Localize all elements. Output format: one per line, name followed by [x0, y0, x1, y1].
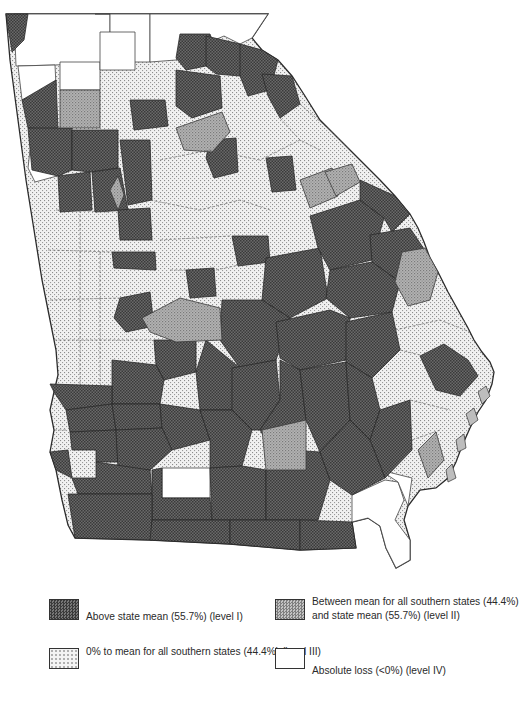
legend-label-level-iv: Absolute loss (<0%) (level IV)	[312, 664, 446, 678]
legend-label-level-ii: Between mean for all southern states (44…	[312, 595, 522, 623]
map-legend: Above state mean (55.7%) (level I) Betwe…	[0, 585, 502, 701]
level-iii-swatch	[49, 648, 79, 669]
legend-item-level-iv: Absolute loss (<0%) (level IV)	[275, 648, 446, 678]
level-i-swatch	[49, 599, 79, 620]
georgia-county-map	[0, 0, 502, 585]
legend-label-level-i: Above state mean (55.7%) (level I)	[86, 610, 243, 624]
legend-item-level-i: Above state mean (55.7%) (level I)	[49, 599, 243, 624]
level-ii-swatch	[275, 599, 305, 620]
level-iv-swatch	[275, 648, 305, 669]
legend-item-level-ii: Between mean for all southern states (44…	[275, 599, 522, 623]
